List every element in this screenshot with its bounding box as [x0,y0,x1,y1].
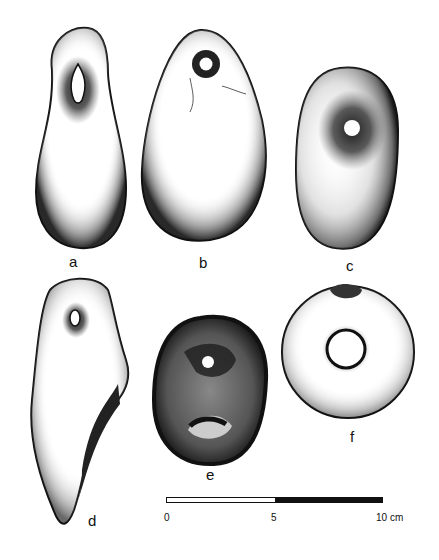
label-c: c [346,258,354,273]
scale-tick-10: 10 [376,513,387,523]
artifact-d [31,279,128,524]
scale-segment-white [167,498,275,502]
scale-bar [166,497,383,503]
scale-tick-5: 5 [271,513,277,523]
artifact-f [282,284,414,418]
scale-unit: cm [390,513,403,523]
scale-tick-0: 0 [164,513,170,523]
artifact-illustrations [0,0,439,560]
label-f: f [350,429,354,444]
perforation-f [327,330,365,368]
perforation-e [202,356,214,368]
scale-segment-black [275,498,383,502]
artifact-b [142,30,266,241]
label-d: d [88,513,96,528]
label-e: e [206,467,214,482]
perforation-b [200,58,213,71]
artifact-c [296,68,398,249]
artifact-e [154,317,266,464]
label-b: b [199,255,207,270]
perforation-c [344,120,360,136]
label-a: a [69,254,77,269]
artifact-a [36,28,126,248]
perforation-d [70,310,80,326]
